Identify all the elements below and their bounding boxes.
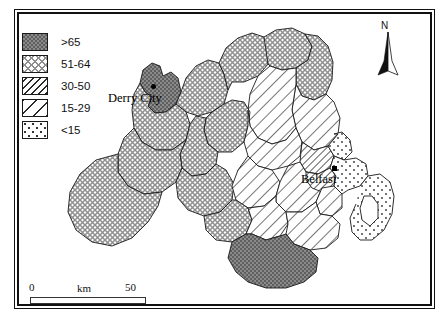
legend-label-over-65: >65 [61, 36, 81, 48]
legend-swatch-30-50 [22, 77, 48, 95]
legend-swatch-15-29 [22, 99, 48, 117]
legend-row-0: >65 [22, 31, 122, 53]
belfast-label: Belfast [301, 172, 336, 187]
legend-label-under-15: <15 [61, 124, 81, 136]
scale-max-label: 50 [125, 281, 136, 293]
legend-row-2: 30-50 [22, 75, 122, 97]
north-arrow-needle [372, 31, 406, 76]
scale-unit-label: km [77, 282, 91, 294]
legend-swatch-over-65 [22, 33, 48, 51]
scale-bar-rect [30, 297, 146, 304]
north-arrow: N [372, 20, 406, 76]
legend-swatch-51-64 [22, 55, 48, 73]
map-figure: >65 51-64 30-50 15-29 <15 Derry City Bel… [0, 0, 448, 324]
legend-swatch-under-15 [22, 121, 48, 139]
derry-city-label: Derry City [108, 91, 162, 106]
scale-bar-ticks: 0 km 50 [29, 281, 147, 295]
north-arrow-label: N [381, 20, 388, 31]
density-legend: >65 51-64 30-50 15-29 <15 [22, 31, 122, 141]
legend-label-51-64: 51-64 [61, 58, 90, 70]
legend-label-15-29: 15-29 [61, 102, 90, 114]
derry-city-marker-dot [151, 84, 156, 89]
legend-label-30-50: 30-50 [61, 80, 90, 92]
region-ballymena [248, 66, 296, 144]
scale-bar: 0 km 50 [29, 281, 147, 295]
legend-row-1: 51-64 [22, 53, 122, 75]
legend-row-3: 15-29 [22, 97, 122, 119]
scale-min-label: 0 [29, 281, 35, 293]
legend-row-4: <15 [22, 119, 122, 141]
belfast-marker-square [332, 166, 337, 171]
